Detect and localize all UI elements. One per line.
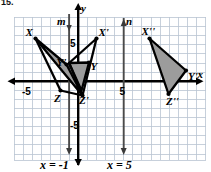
label-y-prime: Y' <box>57 56 67 68</box>
equation-label-n: x = 5 <box>106 158 132 172</box>
label-z-prime: Z' <box>78 94 89 106</box>
grid-lines <box>14 17 206 160</box>
tick-label-y-pos5: 5 <box>70 38 76 49</box>
axis-label-x: x <box>197 68 204 80</box>
line-label-n: n <box>126 15 132 27</box>
triangle-x-double-prime-y-double-prime-z-double-prime <box>150 39 187 95</box>
reflection-line-m <box>66 14 72 155</box>
label-x-double-prime: X'' <box>141 25 155 37</box>
label-x-prime: X' <box>98 26 109 38</box>
label-x: X <box>25 26 34 38</box>
vertex-dot-x-double-prime <box>147 36 151 40</box>
label-y: Y <box>91 60 99 72</box>
line-m-arrow-down-top <box>66 25 71 31</box>
label-z-double-prime: Z'' <box>165 95 179 107</box>
label-z: Z <box>53 92 61 104</box>
equation-label-m: x = -1 <box>39 158 69 172</box>
x-axis-arrow-left <box>8 77 16 85</box>
tick-label-x-neg5: -5 <box>22 86 31 97</box>
axis-label-y: y <box>79 2 86 14</box>
tick-label-x-pos5: 5 <box>120 86 126 97</box>
coordinate-plane-figure: X X' X'' Y Y' Y'' Z Z' Z'' m n y x -5 5 … <box>0 0 211 172</box>
figure-container: 15. <box>0 0 211 172</box>
y-axis-arrow-down <box>75 159 82 166</box>
line-label-m: m <box>57 15 66 27</box>
tick-label-y-neg5: -5 <box>70 120 79 131</box>
